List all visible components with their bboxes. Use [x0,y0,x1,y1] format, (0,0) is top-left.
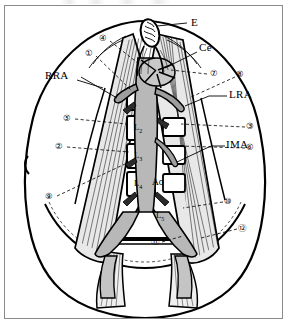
top-edge-artifact [60,0,180,4]
label-vertebra-l5: L5 [156,211,164,222]
vertebra-sub: 2 [139,128,142,134]
vertebra-sub: 5 [161,216,164,222]
label-vertebra-l4: L4 [134,179,142,190]
vertebra-sub: 4 [139,184,142,190]
label-right-renal-artery: RRA [45,70,69,81]
vertebra-sub: 3 [139,156,142,162]
callout-3: ③ [246,122,254,131]
anatomical-illustration: E Ce RRA LRA IMA Ao L2 L3 L4 L5 ① ② ③ ④ … [5,6,283,319]
anatomy-svg [5,6,283,319]
label-aorta: Ao [152,178,164,188]
figure-frame: E Ce RRA LRA IMA Ao L2 L3 L4 L5 ① ② ③ ④ … [4,5,283,319]
callout-1: ① [85,49,93,58]
callout-8: ⑧ [236,70,244,79]
label-vertebra-l3: L3 [134,151,142,162]
label-vertebra-l2: L2 [134,123,142,134]
label-oesophagus: E [191,17,198,28]
label-inferior-mesenteric-artery: IMA [226,139,248,150]
callout-2: ② [55,142,63,151]
callout-11: ⑪ [151,237,160,246]
callout-5: ⑤ [63,114,71,123]
label-coeliac-trunk: Ce [199,42,212,53]
label-left-renal-artery: LRA [229,89,252,100]
figure-root: E Ce RRA LRA IMA Ao L2 L3 L4 L5 ① ② ③ ④ … [0,0,288,325]
callout-10: ⑩ [224,197,232,206]
callout-4: ④ [99,34,107,43]
callout-12: ⑫ [238,224,247,233]
callout-7: ⑦ [210,69,218,78]
callout-9: ⑨ [45,192,53,201]
callout-6: ⑥ [246,143,254,152]
